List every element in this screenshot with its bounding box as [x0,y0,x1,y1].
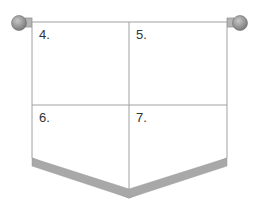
knob-left-icon [12,16,27,31]
knob-right-icon [233,16,248,31]
panel-label-4: 4. [39,27,50,42]
panel-label-6: 6. [39,110,50,125]
panel-label-7: 7. [136,110,147,125]
panel-label-5: 5. [136,27,147,42]
